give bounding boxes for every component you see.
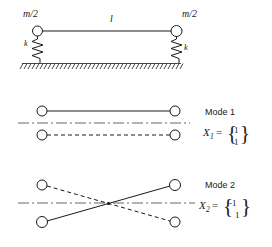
- mode-2-equation: X 2 = { -1 1 }: [198, 194, 251, 220]
- mode-1-brace-right: }: [240, 121, 250, 145]
- spring-left-label: k: [24, 38, 28, 48]
- mode-1-eq-equals: =: [216, 126, 222, 138]
- mass-left-label: m/2: [23, 8, 38, 19]
- mode-1-lower-right-node: [170, 130, 180, 140]
- spring-right: [171, 37, 182, 64]
- mode-1-eq-subscript: 1: [210, 132, 214, 141]
- ground-hatching-icon: [20, 64, 183, 70]
- mode-1-equation: X 1 = { 1 1 }: [202, 121, 250, 147]
- mass-right-label: m/2: [182, 8, 197, 19]
- mode-2-lower-right-node: [170, 217, 180, 227]
- length-label: l: [110, 13, 113, 24]
- mode-1-vector-row-1: 1: [234, 137, 239, 147]
- mode-1-upper-left-node: [37, 106, 47, 116]
- mode-2-upper-left-node: [37, 180, 47, 190]
- mode-1-title: Mode 1: [205, 107, 235, 117]
- mode-2-crossing-node: [107, 202, 110, 205]
- spring-right-label: k: [184, 42, 188, 52]
- mode-1-upper-right-node: [170, 106, 180, 116]
- mode-1-vector-row-0: 1: [234, 125, 239, 135]
- mass-right-node: [171, 26, 182, 37]
- system-diagram: l m/2 m/2 k k: [20, 8, 197, 69]
- mode-2-eq-equals: =: [212, 199, 218, 211]
- mode-1-diagram: Mode 1 X 1 = { 1 1 }: [18, 106, 250, 147]
- mode-2-lower-left-node: [37, 217, 48, 228]
- mode-2-vector-row-0: -1: [229, 198, 237, 208]
- mode-2-diagram: Mode 2 X 2 = { -1 1 }: [18, 180, 251, 228]
- mode-shape-figure: l m/2 m/2 k k: [0, 0, 272, 247]
- mode-2-vector-row-1: 1: [235, 210, 240, 220]
- mode-1-lower-left-node: [37, 130, 47, 140]
- spring-left: [32, 36, 43, 63]
- mode-2-eq-subscript: 2: [206, 205, 210, 214]
- mass-left-node: [33, 26, 43, 36]
- mode-2-brace-right: }: [241, 194, 251, 218]
- mode-2-title: Mode 2: [205, 180, 235, 190]
- mode-2-upper-right-node: [170, 180, 181, 191]
